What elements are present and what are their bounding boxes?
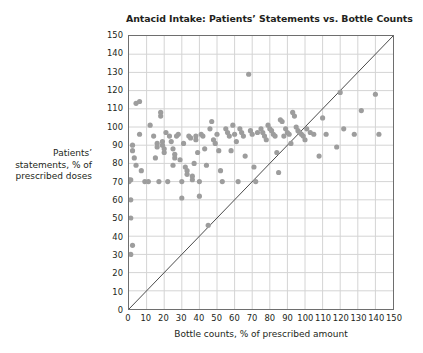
y-axis-title-line-2: statements, % of: [6, 160, 92, 172]
y-tick-10: 10: [96, 287, 123, 297]
y-tick-90: 90: [96, 140, 123, 150]
y-tick-30: 30: [96, 250, 123, 260]
scatter-chart: Antacid Intake: Patients’ Statements vs.…: [0, 0, 423, 353]
chart-title: Antacid Intake: Patients’ Statements vs.…: [126, 13, 394, 24]
plot-area: [128, 35, 394, 310]
y-tick-130: 130: [96, 67, 123, 77]
y-axis-tick-labels: 0102030405060708090100110120130140150: [96, 30, 123, 315]
y-tick-70: 70: [96, 177, 123, 187]
y-tick-50: 50: [96, 213, 123, 223]
data-points-layer: [129, 36, 393, 309]
x-axis-title: Bottle counts, % of prescribed amount: [128, 329, 394, 339]
y-axis-title-line-3: prescribed doses: [6, 171, 92, 183]
y-axis-title: Patients’ statements, % of prescribed do…: [6, 148, 92, 183]
x-tick-150: 150: [382, 313, 406, 323]
y-tick-60: 60: [96, 195, 123, 205]
x-axis-tick-labels: 0102030405060708090100110120130140150: [110, 313, 410, 327]
y-tick-110: 110: [96, 103, 123, 113]
y-tick-40: 40: [96, 232, 123, 242]
y-axis-title-line-1: Patients’: [6, 148, 92, 160]
y-tick-100: 100: [96, 122, 123, 132]
y-tick-120: 120: [96, 85, 123, 95]
y-tick-150: 150: [96, 30, 123, 40]
y-tick-140: 140: [96, 48, 123, 58]
y-tick-80: 80: [96, 158, 123, 168]
y-tick-20: 20: [96, 268, 123, 278]
